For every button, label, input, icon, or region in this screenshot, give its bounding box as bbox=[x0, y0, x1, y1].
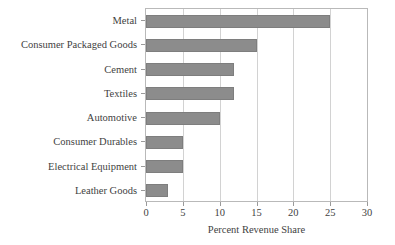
bar bbox=[146, 15, 330, 28]
x-axis: 051015202530 bbox=[145, 202, 368, 222]
x-tick-mark bbox=[367, 202, 368, 206]
category-label: Leather Goods bbox=[75, 184, 137, 195]
x-tick-label: 5 bbox=[180, 207, 185, 219]
bar bbox=[146, 136, 183, 149]
bar-row bbox=[146, 38, 367, 52]
x-tick-mark bbox=[257, 202, 258, 206]
category-label: Textiles bbox=[104, 87, 137, 98]
category-label: Automotive bbox=[87, 112, 137, 123]
category-label: Cement bbox=[104, 63, 137, 74]
bar bbox=[146, 63, 234, 76]
bar-row bbox=[146, 14, 367, 28]
x-tick-label: 20 bbox=[288, 207, 299, 219]
bar-chart-figure: MetalConsumer Packaged GoodsCementTextil… bbox=[0, 0, 395, 245]
bar bbox=[146, 184, 168, 197]
x-tick-label: 0 bbox=[143, 207, 148, 219]
bar bbox=[146, 160, 183, 173]
x-tick-label: 15 bbox=[251, 207, 262, 219]
x-tick-mark bbox=[293, 202, 294, 206]
x-tick-label: 30 bbox=[362, 207, 373, 219]
x-tick-mark bbox=[330, 202, 331, 206]
x-tick-label: 10 bbox=[214, 207, 225, 219]
plot-area bbox=[145, 8, 368, 202]
category-label: Metal bbox=[113, 15, 138, 26]
bar bbox=[146, 112, 220, 125]
category-label: Consumer Packaged Goods bbox=[21, 39, 137, 50]
bar-row bbox=[146, 87, 367, 101]
bar-row bbox=[146, 111, 367, 125]
bar-row bbox=[146, 135, 367, 149]
x-axis-title: Percent Revenue Share bbox=[145, 224, 368, 235]
x-tick-mark bbox=[220, 202, 221, 206]
x-tick-mark bbox=[146, 202, 147, 206]
category-label: Electrical Equipment bbox=[48, 160, 137, 171]
bar bbox=[146, 39, 257, 52]
x-tick-label: 25 bbox=[325, 207, 336, 219]
category-label: Consumer Durables bbox=[53, 136, 137, 147]
x-tick-mark bbox=[183, 202, 184, 206]
bar-row bbox=[146, 63, 367, 77]
bar-row bbox=[146, 184, 367, 198]
bar-row bbox=[146, 160, 367, 174]
bar bbox=[146, 87, 234, 100]
category-axis: MetalConsumer Packaged GoodsCementTextil… bbox=[0, 8, 145, 202]
bars-layer bbox=[146, 9, 367, 201]
